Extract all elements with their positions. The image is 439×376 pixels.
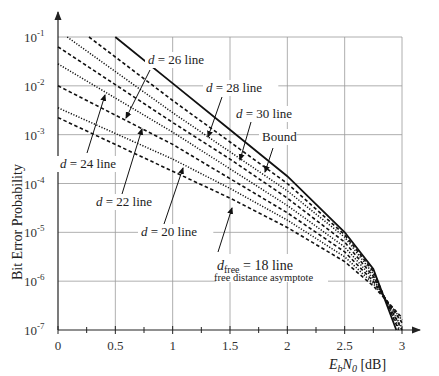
- y-tick-labels: 10-110-210-310-410-510-610-7: [24, 28, 45, 338]
- ber-chart: 10-110-210-310-410-510-610-7 00.511.522.…: [0, 0, 439, 376]
- annotation-label: d = 30 line: [236, 106, 292, 121]
- svg-text:free distance asymptote: free distance asymptote: [214, 272, 313, 283]
- annotation-label: Bound: [262, 129, 297, 144]
- annotations: d = 26 lined = 28 lined = 30 lineBoundd …: [57, 52, 308, 240]
- annotation-arrow: [87, 95, 105, 153]
- y-tick-label: 10-4: [24, 175, 45, 192]
- annotation-label: d = 26 line: [148, 52, 204, 67]
- y-tick-label: 10-7: [24, 321, 45, 338]
- axes: [58, 12, 420, 334]
- x-tick-label: 1: [169, 338, 176, 353]
- x-tick-label: 3: [399, 338, 406, 353]
- x-tick-labels: 00.511.522.53: [55, 338, 406, 353]
- y-tick-label: 10-1: [24, 28, 45, 45]
- x-tick-label: 1.5: [222, 338, 238, 353]
- y-axis-label: Bit Error Probability: [10, 164, 25, 280]
- annotation-label: d = 22 line: [96, 194, 152, 209]
- annotation-label: d = 20 line: [141, 224, 197, 239]
- y-tick-label: 10-5: [24, 223, 45, 240]
- x-tick-label: 0: [55, 338, 62, 353]
- y-tick-label: 10-6: [24, 272, 45, 289]
- x-tick-label: 2.5: [337, 338, 353, 353]
- x-axis-label: EbN0 [dB]: [328, 357, 386, 374]
- annotation-arrow: [240, 122, 251, 160]
- annotation-label: d = 28 line: [206, 80, 262, 95]
- y-tick-label: 10-2: [24, 77, 45, 94]
- y-tick-label: 10-3: [24, 126, 45, 143]
- annotation-label: d = 24 line: [60, 156, 116, 171]
- x-tick-label: 0.5: [107, 338, 123, 353]
- x-tick-label: 2: [284, 338, 291, 353]
